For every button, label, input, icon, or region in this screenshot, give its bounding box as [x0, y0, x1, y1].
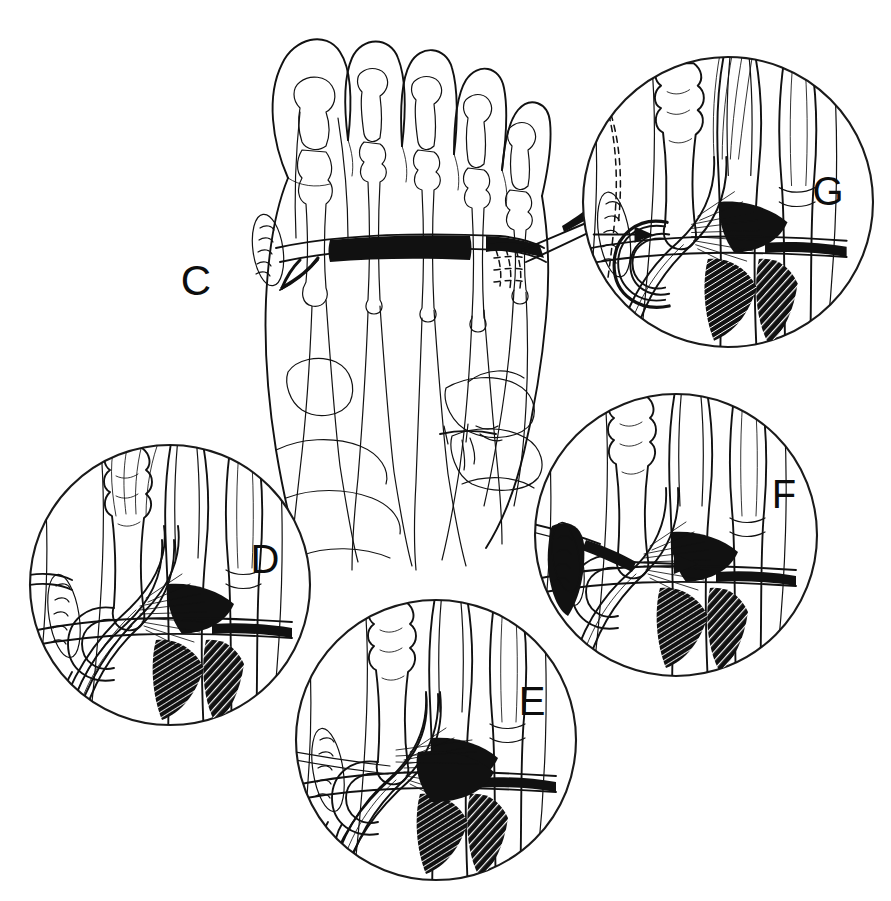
panel-label-d: D [251, 537, 280, 581]
panel-f-inset: F [514, 386, 817, 686]
panel-e-inset: E [274, 592, 576, 892]
panel-label-c: C [181, 257, 211, 304]
panel-label-f: F [772, 472, 796, 516]
surgical-figure: C [0, 0, 891, 901]
figure-canvas: C [0, 0, 891, 901]
panel-label-g: G [812, 169, 843, 213]
panel-label-e: E [519, 679, 546, 723]
panel-d-inset: D [24, 438, 310, 738]
panel-g-inset: G [577, 53, 873, 359]
